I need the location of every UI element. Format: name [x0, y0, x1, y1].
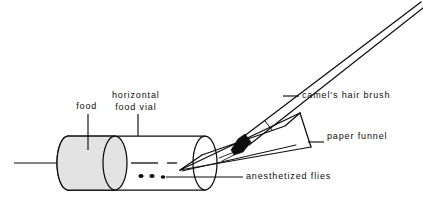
food-plug	[57, 136, 127, 190]
anesthetized-flies	[138, 174, 243, 179]
label-anesthetized-flies: anesthetized flies	[246, 170, 331, 182]
brush-handle-lower-edge	[249, 8, 423, 145]
label-horizontal-food-vial-line1: horizontal	[95, 89, 177, 101]
fly-dot-1	[138, 174, 143, 178]
label-horizontal-food-vial-line2: food vial	[95, 101, 177, 113]
label-camels-hair-brush: camel's hair brush	[302, 89, 390, 101]
vial-mouth-opening	[193, 136, 217, 190]
brush-handle-upper-edge	[243, 2, 421, 137]
label-paper-funnel: paper funnel	[327, 130, 387, 142]
fly-dot-3	[161, 175, 166, 179]
label-horizontal-food-vial: horizontal food vial	[95, 89, 177, 112]
figure-container: food horizontal food vial camel's hair b…	[0, 0, 423, 204]
fly-dot-2	[149, 174, 154, 178]
food-plug-body	[57, 136, 127, 190]
